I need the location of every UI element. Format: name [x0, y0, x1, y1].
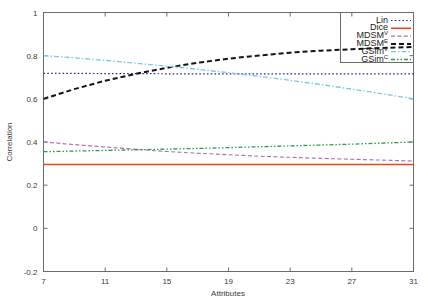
x-tick-label: 15: [162, 277, 171, 286]
y-tick-label: 0.4: [26, 138, 38, 147]
x-axis-tick-labels: 7111519232731: [41, 277, 418, 286]
x-tick-label: 31: [409, 277, 418, 286]
y-tick-label: 0.6: [26, 95, 38, 104]
y-axis-tick-labels: -0.200.20.40.60.81: [24, 9, 38, 277]
x-tick-label: 23: [286, 277, 295, 286]
y-tick-label: -0.2: [24, 268, 38, 277]
y-tick-label: 0.8: [26, 52, 38, 61]
series-line-gsim-c: [44, 142, 414, 152]
x-tick-label: 19: [224, 277, 233, 286]
y-tick-label: 0: [33, 224, 38, 233]
data-series-layer: [44, 47, 414, 164]
chart-canvas: 7111519232731 -0.200.20.40.60.81 Attribu…: [0, 0, 428, 305]
y-axis-title: Correlation: [5, 122, 14, 161]
series-line-mdsm-v: [44, 142, 414, 161]
y-tick-label: 1: [33, 9, 38, 18]
x-axis-title: Attributes: [211, 289, 245, 298]
x-tick-label: 7: [41, 277, 46, 286]
x-tick-label: 11: [101, 277, 110, 286]
x-tick-label: 27: [347, 277, 356, 286]
correlation-line-chart: 7111519232731 -0.200.20.40.60.81 Attribu…: [0, 0, 428, 305]
y-tick-label: 0.2: [26, 181, 38, 190]
